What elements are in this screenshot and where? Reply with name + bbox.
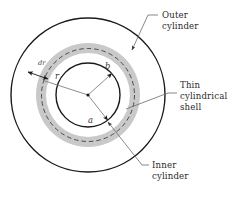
- callout-inner-cylinder: Inner cylinder: [152, 160, 189, 181]
- callout-thin-cylindrical-shell: Thin cylindrical shell: [180, 80, 227, 112]
- callout-outer-cylinder-line-2: cylinder: [162, 21, 199, 31]
- callout-thin-shell-line-1: Thin: [180, 80, 200, 90]
- callout-outer-cylinder: Outer cylinder: [162, 10, 199, 31]
- callout-thin-shell-line-3: shell: [180, 102, 201, 112]
- figure-container: Outer cylinder Thin cylindrical shell In…: [0, 0, 245, 198]
- callout-inner-cylinder-line-1: Inner: [152, 160, 177, 170]
- center-point-dot: [86, 93, 89, 96]
- radius-label-a: a: [88, 115, 93, 125]
- callout-thin-shell-line-2: cylindrical: [180, 91, 227, 101]
- callout-inner-cylinder-line-2: cylinder: [152, 171, 189, 181]
- leader-line-outer-cylinder: [132, 15, 158, 50]
- thickness-label-dr: dr: [38, 59, 46, 67]
- coaxial-cylinders-diagram: Outer cylinder Thin cylindrical shell In…: [0, 0, 245, 198]
- callout-outer-cylinder-line-1: Outer: [162, 10, 189, 20]
- radius-label-b: b: [105, 61, 110, 71]
